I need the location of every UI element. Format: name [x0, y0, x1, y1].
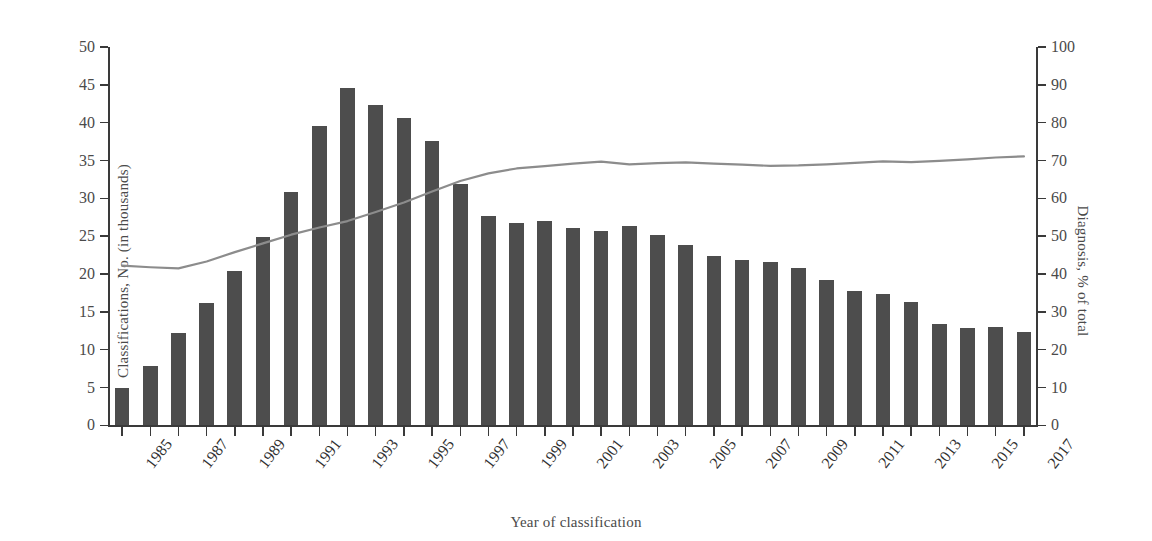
y-tick-label-left: 25 [79, 228, 95, 244]
y-tick-label-right: 80 [1051, 115, 1067, 131]
y-tick-mark-left [100, 84, 108, 86]
x-tick-label: 1991 [311, 436, 345, 472]
x-tick-label: 1989 [255, 436, 289, 472]
y-tick-label-right: 30 [1051, 304, 1067, 320]
y-tick-label-right: 70 [1051, 153, 1067, 169]
x-tick-label: 2007 [762, 436, 796, 472]
x-tick-label: 2009 [819, 436, 853, 472]
y-tick-label-left: 15 [79, 304, 95, 320]
y-tick-mark-right [1038, 425, 1046, 427]
x-tick-label: 2003 [649, 436, 683, 472]
x-tick-label: 2001 [593, 436, 627, 472]
y-tick-label-left: 35 [79, 153, 95, 169]
y-tick-label-left: 50 [79, 39, 95, 55]
x-tick-label: 1985 [142, 436, 176, 472]
y-tick-label-left: 10 [79, 342, 95, 358]
x-tick-label: 2015 [988, 436, 1022, 472]
y-tick-mark-left [100, 273, 108, 275]
plot-area: 05101520253035404550 0102030405060708090… [108, 47, 1038, 427]
x-tick-label: 1995 [424, 436, 458, 472]
x-tick-label: 2017 [1044, 436, 1078, 472]
y-tick-mark-left [100, 122, 108, 124]
y-tick-label-left: 5 [87, 380, 95, 396]
y-tick-mark-right [1038, 311, 1046, 313]
y-tick-mark-right [1038, 273, 1046, 275]
y-tick-label-left: 30 [79, 190, 95, 206]
y-tick-label-right: 10 [1051, 380, 1067, 396]
x-tick-label: 2011 [875, 436, 909, 472]
y-tick-mark-left [100, 387, 108, 389]
x-tick-label: 1999 [537, 436, 571, 472]
y-tick-label-right: 50 [1051, 228, 1067, 244]
y-tick-label-right: 100 [1051, 39, 1075, 55]
y-tick-mark-left [100, 235, 108, 237]
chart-figure: Classifications, No. (in thousands) Diag… [0, 0, 1152, 541]
y-tick-label-left: 45 [79, 77, 95, 93]
x-axis-label: Year of classification [0, 514, 1152, 531]
y-tick-mark-right [1038, 160, 1046, 162]
y-tick-mark-left [100, 46, 108, 48]
y-tick-mark-right [1038, 46, 1046, 48]
y-tick-label-left: 0 [87, 417, 95, 433]
y-tick-mark-left [100, 160, 108, 162]
y-tick-label-right: 40 [1051, 266, 1067, 282]
y-tick-label-right: 0 [1051, 417, 1059, 433]
y-tick-label-left: 40 [79, 115, 95, 131]
x-tick-label: 2005 [706, 436, 740, 472]
line-series [108, 47, 1038, 427]
y-tick-mark-left [100, 425, 108, 427]
y-tick-mark-right [1038, 235, 1046, 237]
y-tick-mark-left [100, 349, 108, 351]
y-tick-mark-left [100, 198, 108, 200]
y-tick-label-right: 60 [1051, 190, 1067, 206]
y-tick-label-right: 20 [1051, 342, 1067, 358]
y-tick-mark-left [100, 311, 108, 313]
y-axis-label-right: Diagnosis, % of total [1074, 205, 1091, 336]
y-tick-label-right: 90 [1051, 77, 1067, 93]
x-tick-label: 1993 [368, 436, 402, 472]
y-tick-mark-right [1038, 349, 1046, 351]
y-tick-label-left: 20 [79, 266, 95, 282]
y-tick-mark-right [1038, 387, 1046, 389]
diagnosis-percent-line [122, 156, 1024, 268]
y-tick-mark-right [1038, 84, 1046, 86]
y-tick-mark-right [1038, 122, 1046, 124]
x-axis-tick-labels: 1985198719891991199319951997199920012003… [108, 428, 1038, 498]
x-tick-label: 1997 [480, 436, 514, 472]
x-tick-label: 2013 [931, 436, 965, 472]
y-tick-mark-right [1038, 198, 1046, 200]
x-tick-label: 1987 [199, 436, 233, 472]
